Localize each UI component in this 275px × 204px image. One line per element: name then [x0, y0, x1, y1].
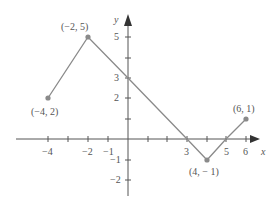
- point-neg2-5: [85, 34, 90, 39]
- y-tick-label: −2: [110, 174, 121, 185]
- y-tick-label: 2: [114, 92, 119, 103]
- graph-line: [48, 37, 246, 160]
- y-axis-arrow-icon: [124, 14, 132, 26]
- x-tick-label: 6: [243, 146, 248, 157]
- x-axis-arrow-icon: [250, 135, 260, 143]
- function-graph: (−4, 2) (−2, 5) (4, − 1) (6, 1) x y −4 −…: [0, 0, 275, 204]
- point-neg4-2: [45, 95, 50, 100]
- x-tick-label: 3: [184, 146, 189, 157]
- x-axis-label: x: [260, 146, 266, 157]
- label-point-neg4-2: (−4, 2): [31, 106, 58, 118]
- x-axis: [16, 136, 252, 142]
- y-tick-label: 5: [114, 31, 119, 42]
- label-point-6-1: (6, 1): [233, 103, 255, 115]
- y-tick-label: 3: [114, 72, 119, 83]
- point-6-1: [243, 116, 248, 121]
- y-axis: [125, 24, 131, 196]
- x-tick-label: −2: [82, 146, 93, 157]
- label-point-4-neg1: (4, − 1): [189, 166, 219, 178]
- y-tick-label: −1: [110, 154, 121, 165]
- x-tick-label: −4: [42, 146, 53, 157]
- label-point-neg2-5: (−2, 5): [61, 21, 88, 33]
- point-4-neg1: [204, 157, 209, 162]
- x-tick-label: 5: [224, 146, 229, 157]
- y-axis-label: y: [113, 14, 119, 25]
